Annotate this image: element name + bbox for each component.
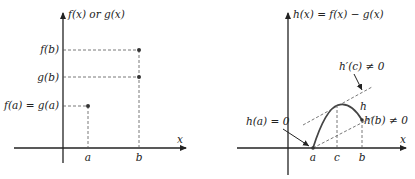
- tick-c-right: c: [334, 151, 340, 163]
- tick-a-right: a: [310, 151, 316, 163]
- tick-b: b: [136, 151, 143, 163]
- right-x-axis-label: x: [400, 133, 406, 145]
- annotation-ha: h(a) = 0: [246, 115, 290, 127]
- point-a: [86, 104, 90, 108]
- right-y-axis-label: h(x) = f(x) − g(x): [293, 8, 384, 20]
- left-x-axis-label: x: [177, 133, 183, 145]
- tick-b-right: b: [359, 151, 366, 163]
- annotation-hb: h(b) ≠ 0: [364, 114, 408, 126]
- point-fb: [137, 48, 141, 52]
- tick-fb: f(b): [39, 43, 59, 55]
- arrow-ha: [283, 129, 309, 146]
- left-panel: f(x) or g(x) x f(b) g(b) f(a) = g(a) a b: [3, 8, 186, 163]
- annotation-hc: h′(c) ≠ 0: [339, 60, 385, 72]
- tick-a: a: [85, 151, 91, 163]
- arrow-hc: [354, 74, 362, 90]
- tick-fa-ga: f(a) = g(a): [3, 99, 59, 111]
- curve-label-h: h: [360, 100, 367, 112]
- left-y-axis-label: f(x) or g(x): [67, 8, 125, 20]
- point-gb: [137, 75, 141, 79]
- diagram-canvas: f(x) or g(x) x f(b) g(b) f(a) = g(a) a b…: [0, 0, 415, 179]
- tick-gb: g(b): [37, 71, 59, 83]
- point-ha: [311, 146, 315, 150]
- right-panel: h(x) = f(x) − g(x) x h h(b) ≠ 0 h(a) = 0…: [237, 8, 408, 175]
